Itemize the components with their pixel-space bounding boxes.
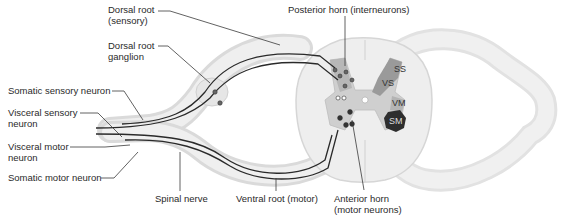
label-dorsal-root: Dorsal root (sensory) bbox=[108, 4, 154, 26]
left-nerve-sheath bbox=[110, 47, 320, 176]
label-line: neuron bbox=[8, 152, 69, 163]
zone-sm-label: SM bbox=[389, 116, 403, 126]
label-anterior-horn: Anterior horn (motor neurons) bbox=[334, 193, 402, 215]
ganglion-cell-visceral bbox=[218, 101, 222, 105]
motor-neuron bbox=[344, 123, 349, 128]
ganglion-cell-somatic bbox=[213, 90, 217, 94]
zone-ss-label: SS bbox=[394, 64, 406, 74]
label-visceral-sensory-neuron: Visceral sensory neuron bbox=[8, 107, 78, 129]
label-somatic-motor-neuron: Somatic motor neuron bbox=[8, 172, 101, 183]
spinal-cord-diagram: SS VS VM SM bbox=[0, 0, 564, 219]
spinal-cord: SS VS VM SM bbox=[296, 38, 432, 182]
label-somatic-sensory-neuron: Somatic sensory neuron bbox=[8, 85, 110, 96]
motor-neuron bbox=[348, 110, 353, 115]
leader-somatic-motor bbox=[101, 152, 138, 178]
label-line: (motor neurons) bbox=[334, 204, 402, 215]
interneuron bbox=[338, 74, 342, 78]
central-canal bbox=[362, 97, 368, 103]
label-dorsal-root-ganglion: Dorsal root ganglion bbox=[108, 40, 154, 62]
leader-visceral-motor bbox=[70, 145, 130, 147]
interneuron bbox=[333, 68, 337, 72]
label-line: neuron bbox=[8, 118, 78, 129]
label-line: (sensory) bbox=[108, 15, 154, 26]
zone-vs-label: VS bbox=[382, 78, 394, 88]
label-ventral-root: Ventral root (motor) bbox=[236, 193, 318, 204]
interneuron bbox=[343, 84, 347, 88]
label-visceral-motor-neuron: Visceral motor neuron bbox=[8, 141, 69, 163]
label-line: Dorsal root bbox=[108, 40, 154, 51]
motor-neuron bbox=[338, 116, 343, 121]
interneuron bbox=[350, 78, 354, 82]
label-spinal-nerve: Spinal nerve bbox=[155, 193, 208, 204]
label-line: Anterior horn bbox=[334, 193, 402, 204]
interneuron bbox=[342, 96, 346, 100]
label-line: ganglion bbox=[108, 51, 154, 62]
interneuron bbox=[344, 70, 348, 74]
label-line: Visceral sensory bbox=[8, 107, 78, 118]
zone-vm-label: VM bbox=[392, 98, 406, 108]
label-posterior-horn: Posterior horn (interneurons) bbox=[288, 4, 409, 15]
label-line: Dorsal root bbox=[108, 4, 154, 15]
label-line: Visceral motor bbox=[8, 141, 69, 152]
interneuron bbox=[336, 96, 340, 100]
